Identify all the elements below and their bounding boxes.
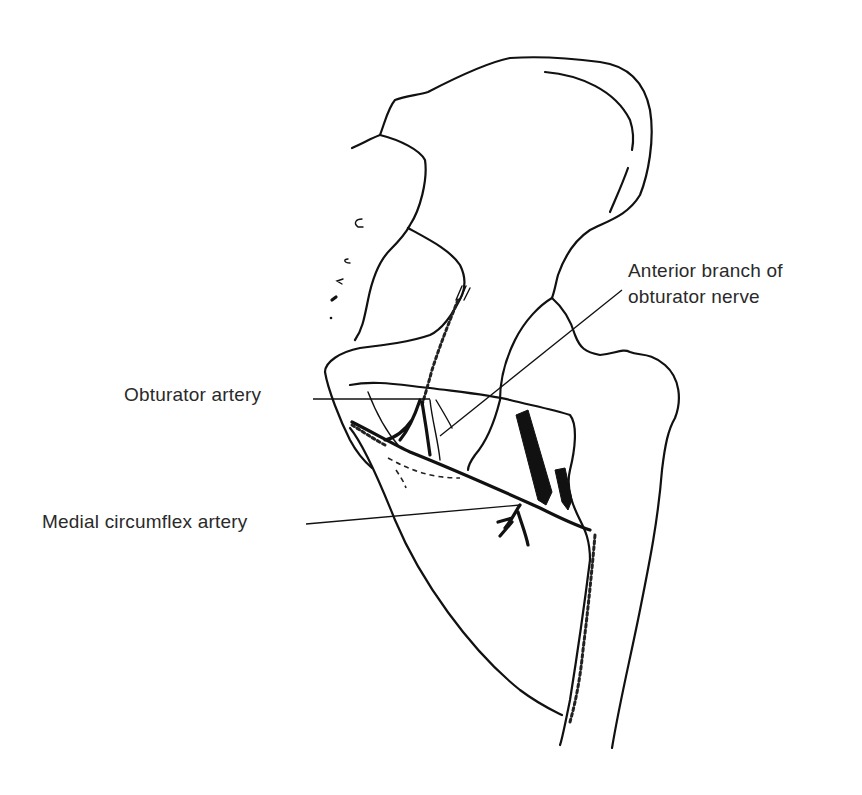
leader-anterior-branch [440, 290, 622, 436]
label-medial-circumflex-artery: Medial circumflex artery [42, 509, 247, 535]
ilium-anterior-border [355, 135, 426, 340]
label-obturator-artery: Obturator artery [124, 382, 261, 408]
pelvis-mark-3 [337, 279, 343, 284]
pubic-ramus-upper [408, 228, 464, 295]
pelvis-mark-4 [332, 297, 336, 300]
pelvis-mark-2 [345, 259, 350, 263]
pectineus-insertion-dotted [570, 535, 595, 722]
pelvis-mark-1 [355, 219, 363, 227]
femoral-vessel-main [516, 410, 552, 505]
pelvis-mark-5 [330, 317, 333, 320]
anatomical-figure: Anterior branch of obturator nerve Obtur… [0, 0, 862, 795]
iliac-inner-curve [545, 72, 633, 150]
obturator-nerve-branches [430, 400, 452, 460]
acetabulum-rim [350, 383, 510, 400]
leader-medial-circumflex [306, 505, 520, 524]
obturator-membrane-dashed [388, 458, 460, 488]
obturator-artery-vessel [385, 400, 430, 455]
femoral-neck-outline [500, 298, 552, 400]
label-line-1: Anterior branch of [628, 258, 783, 284]
iliac-inner-curve-lower [610, 168, 628, 212]
medial-circumflex-branches [498, 505, 528, 545]
label-anterior-branch-obturator-nerve: Anterior branch of obturator nerve [628, 258, 783, 310]
femur-shaft-medial [560, 560, 590, 745]
label-line-2: obturator nerve [628, 284, 783, 310]
